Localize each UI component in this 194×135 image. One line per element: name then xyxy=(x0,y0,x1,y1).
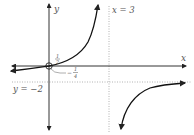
y-intercept-denominator: 2 xyxy=(55,59,59,65)
curve-right-branch xyxy=(121,83,185,129)
x-intercept-numerator: 1 xyxy=(74,66,77,72)
x-intercept-sign: − xyxy=(67,69,72,76)
x-intercept-leader xyxy=(51,69,66,73)
horizontal-asymptote-label: y = −2 xyxy=(12,84,43,94)
x-axis-label: x xyxy=(181,53,186,63)
function-graph: y x x = 3 y = −2 1 2 − 1 4 xyxy=(0,0,194,135)
vertical-asymptote-label: x = 3 xyxy=(112,5,135,15)
x-intercept-denominator: 4 xyxy=(73,73,77,79)
curve-left-branch xyxy=(11,5,98,71)
y-axis-label: y xyxy=(53,4,60,14)
